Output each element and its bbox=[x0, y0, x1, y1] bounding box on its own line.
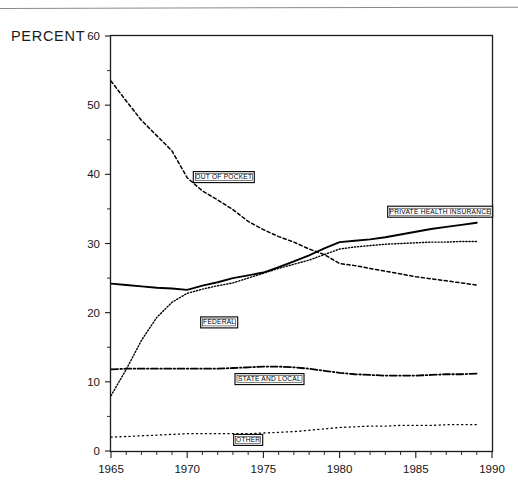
y-tick-label: 30 bbox=[87, 238, 100, 250]
series-line bbox=[111, 223, 477, 290]
x-tick-label: 1980 bbox=[327, 463, 353, 475]
plot-frame bbox=[111, 36, 493, 452]
series-label-text: FEDERAL bbox=[203, 318, 235, 325]
series-label-text: STATE AND LOCAL bbox=[238, 375, 301, 382]
x-tick-label: 1975 bbox=[251, 463, 277, 475]
y-axis: 0102030405060 bbox=[87, 30, 111, 457]
series-line bbox=[111, 241, 477, 395]
series-label: STATE AND LOCAL bbox=[235, 374, 304, 385]
series-line bbox=[111, 425, 477, 437]
series-label-text: OUT OF POCKET bbox=[195, 173, 252, 180]
series-labels: OUT OF POCKETPRIVATE HEALTH INSURANCEFED… bbox=[193, 172, 492, 446]
y-tick-label: 40 bbox=[87, 168, 100, 180]
series-label: OUT OF POCKET bbox=[193, 172, 254, 183]
x-tick-label: 1970 bbox=[174, 463, 200, 475]
line-chart: 0102030405060 196519701975198019851990 O… bbox=[0, 0, 518, 490]
series-label: OTHER bbox=[234, 434, 263, 445]
chart-page: PERCENT 0102030405060 196519701975198019… bbox=[0, 0, 518, 490]
x-tick-label: 1965 bbox=[98, 463, 124, 475]
x-tick-label: 1985 bbox=[403, 463, 429, 475]
series-label: FEDERAL bbox=[201, 317, 238, 328]
series-label-text: OTHER bbox=[236, 436, 260, 443]
y-tick-label: 50 bbox=[87, 99, 100, 111]
x-axis: 196519701975198019851990 bbox=[98, 451, 505, 475]
series-line bbox=[111, 81, 477, 285]
y-tick-label: 10 bbox=[87, 376, 100, 388]
y-tick-label: 20 bbox=[87, 307, 100, 319]
series-label-text: PRIVATE HEALTH INSURANCE bbox=[390, 208, 492, 215]
series-label: PRIVATE HEALTH INSURANCE bbox=[388, 206, 493, 217]
y-tick-label: 60 bbox=[87, 30, 100, 42]
y-tick-label: 0 bbox=[94, 445, 100, 457]
x-tick-label: 1990 bbox=[479, 463, 505, 475]
